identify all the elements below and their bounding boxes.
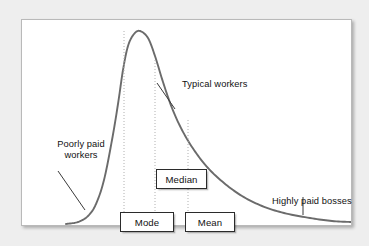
typical-workers-leader-line: [157, 83, 175, 109]
poorly-paid-leader-line: [58, 171, 85, 210]
annotation-highly-paid-bosses: Highly paid bosses: [272, 196, 352, 207]
annotation-typical-workers: Typical workers: [182, 79, 248, 90]
distribution-plot: [22, 20, 351, 225]
stat-box-mode: Mode: [120, 212, 174, 232]
stat-box-mean: Mean: [185, 212, 235, 232]
stat-box-median: Median: [156, 169, 207, 189]
chart-panel: Poorly paid workers Typical workers High…: [21, 19, 352, 226]
figure-root: Poorly paid workers Typical workers High…: [0, 0, 369, 246]
annotation-poorly-paid-workers: Poorly paid workers: [53, 139, 109, 160]
